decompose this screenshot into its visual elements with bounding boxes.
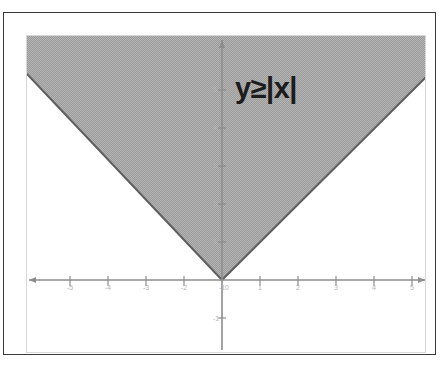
axes-layer bbox=[27, 36, 426, 353]
plot-frame: -5 -4 -3 -2 -1 0 1 2 3 4 5 -1 1 2 3 4 5 … bbox=[26, 35, 426, 353]
xtick-label-0: 0 bbox=[225, 284, 229, 291]
xtick-label-2: 2 bbox=[296, 284, 300, 291]
xtick-label--3: -3 bbox=[143, 284, 149, 291]
xtick-label-5: 5 bbox=[410, 284, 414, 291]
xtick-label--5: -5 bbox=[67, 284, 73, 291]
x-axis-arrow-left bbox=[29, 277, 36, 283]
shaded-region-y-ge-abs-x bbox=[27, 36, 426, 353]
ytick-label-3: 3 bbox=[213, 162, 217, 169]
xtick-label--2: -2 bbox=[181, 284, 187, 291]
ytick-label--1: -1 bbox=[213, 315, 219, 322]
x-axis-arrow-right bbox=[418, 277, 425, 283]
ytick-label-4: 4 bbox=[213, 124, 217, 131]
y-axis-arrow-top bbox=[219, 40, 225, 48]
xtick-label-1: 1 bbox=[258, 284, 262, 291]
x-axis-ticks bbox=[70, 276, 412, 286]
boundary-line-abs-x bbox=[27, 74, 426, 280]
xtick-label--4: -4 bbox=[105, 284, 111, 291]
ytick-label-1: 1 bbox=[213, 238, 217, 245]
page-border-frame: -5 -4 -3 -2 -1 0 1 2 3 4 5 -1 1 2 3 4 5 … bbox=[3, 12, 436, 355]
ytick-label-5: 5 bbox=[213, 86, 217, 93]
inequality-label: y≥|x| bbox=[235, 72, 297, 105]
shade-polygon bbox=[27, 36, 426, 280]
xtick-label-4: 4 bbox=[372, 284, 376, 291]
page-canvas: -5 -4 -3 -2 -1 0 1 2 3 4 5 -1 1 2 3 4 5 … bbox=[0, 0, 443, 368]
ytick-label-2: 2 bbox=[213, 200, 217, 207]
xtick-label-3: 3 bbox=[334, 284, 338, 291]
